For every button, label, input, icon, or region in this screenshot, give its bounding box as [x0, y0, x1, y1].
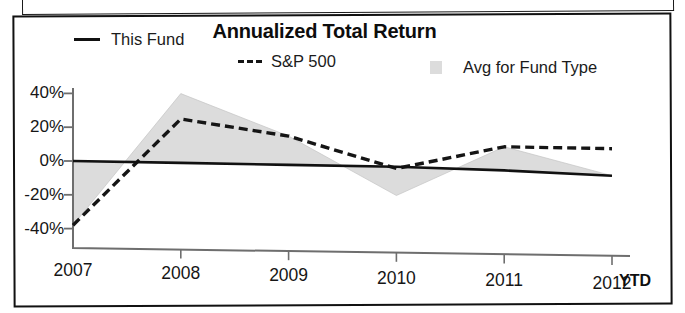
x-tick-label: 2010: [377, 268, 416, 289]
x-tick-label: 2007: [54, 260, 93, 281]
x-tick-label: 2009: [269, 265, 308, 286]
x-axis-ytd-label: YTD: [619, 272, 651, 290]
x-tick-label: 2011: [485, 270, 523, 291]
x-axis-tick-labels: 200720082009201020112012: [0, 0, 685, 313]
x-tick-label: 2008: [161, 263, 200, 284]
